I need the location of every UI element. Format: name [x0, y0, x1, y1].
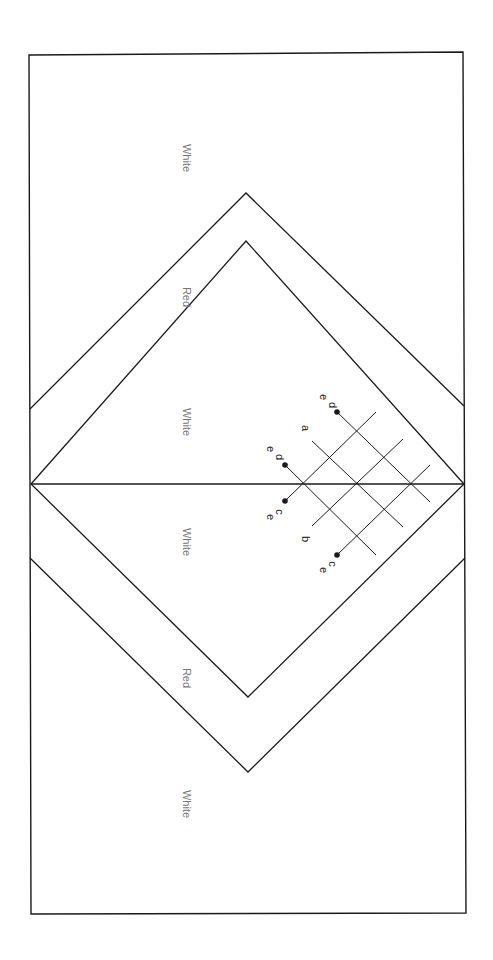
zone-label-red-1: Red — [181, 287, 193, 307]
point-label-a: a — [300, 425, 312, 432]
grid-line-slash-3 — [337, 465, 430, 555]
grid-line-slash-1 — [285, 412, 376, 501]
point-dot — [334, 552, 340, 558]
point-label-e: e — [318, 394, 330, 400]
point-label-e: e — [265, 514, 277, 520]
point-dot — [282, 462, 288, 468]
point-label-e: e — [265, 446, 277, 452]
zone-label-white-1: White — [181, 144, 193, 172]
zone-label-red-2: Red — [181, 668, 193, 688]
point-label-d: d — [274, 454, 286, 460]
point-label-d: d — [327, 402, 339, 408]
point-dot — [334, 409, 340, 415]
zone-label-white-3: White — [181, 528, 193, 556]
inner-diamond — [31, 241, 464, 697]
zone-label-white-4: White — [181, 790, 193, 818]
fold-diagram: White Red White White Red White e d a e … — [0, 0, 493, 960]
outer-chevron-top — [30, 193, 464, 409]
point-label-b: b — [300, 536, 312, 542]
grid-line-slash-2 — [312, 439, 403, 526]
outer-chevron-bottom — [30, 558, 465, 772]
outer-frame — [29, 52, 466, 914]
zone-label-white-2: White — [181, 408, 193, 436]
point-label-e: e — [318, 567, 330, 573]
point-dot — [282, 498, 288, 504]
